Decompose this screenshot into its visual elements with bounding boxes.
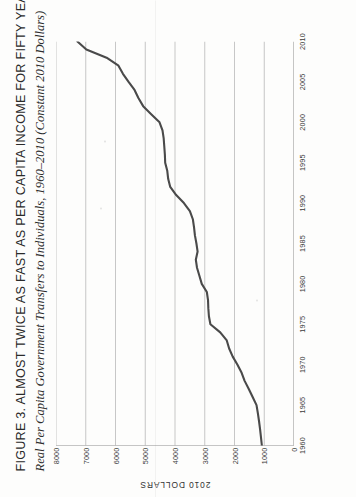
x-tick-label: 1965 bbox=[298, 396, 307, 413]
x-axis-tick-labels: 1960196519701975198019851990199520002005… bbox=[298, 41, 320, 445]
x-tick-label: 2005 bbox=[298, 73, 307, 90]
y-tick-label: 5000 bbox=[141, 447, 150, 464]
y-tick-label: 4000 bbox=[171, 447, 180, 464]
y-tick-label: 6000 bbox=[111, 447, 120, 464]
figure-caption-block: Figure 3. Almost Twice as Fast as Per Ca… bbox=[14, 21, 48, 471]
x-tick-label: 1990 bbox=[298, 194, 307, 211]
figure-subtitle: Real Per Capita Government Transfers to … bbox=[33, 21, 48, 471]
y-tick-label: 8000 bbox=[52, 447, 61, 464]
x-tick-label: 1985 bbox=[298, 235, 307, 252]
x-tick-label: 2000 bbox=[298, 113, 307, 130]
x-tick-label: 1995 bbox=[298, 154, 307, 171]
y-tick-label: 3000 bbox=[200, 447, 209, 464]
line-chart-svg bbox=[56, 41, 294, 445]
x-tick-label: 1975 bbox=[298, 315, 307, 332]
x-tick-label: 1980 bbox=[298, 275, 307, 292]
plot-area bbox=[56, 41, 294, 445]
x-tick-label: 1960 bbox=[298, 437, 307, 454]
x-tick-label: 2010 bbox=[298, 33, 307, 50]
y-tick-label: 1000 bbox=[260, 447, 269, 464]
y-tick-label: 2000 bbox=[230, 447, 239, 464]
figure-title: Figure 3. Almost Twice as Fast as Per Ca… bbox=[14, 21, 28, 471]
x-tick-label: 1970 bbox=[298, 356, 307, 373]
y-axis-tick-labels: 010002000300040005000600070008000 bbox=[56, 447, 294, 483]
y-tick-label: 7000 bbox=[81, 447, 90, 464]
scanned-page: Figure 3. Almost Twice as Fast as Per Ca… bbox=[0, 0, 356, 497]
